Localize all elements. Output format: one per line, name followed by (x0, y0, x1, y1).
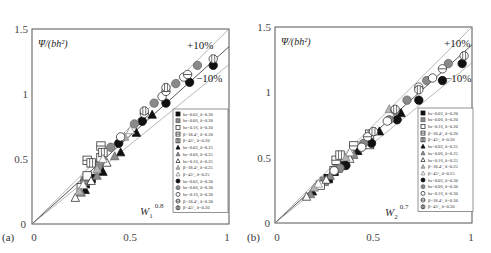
circle-marker (428, 74, 436, 82)
circle-marker (421, 185, 425, 189)
chart-panel-b: 1.5 1 0.5 0 0 0.5 1 (b) Ψ/(bh²) +10% −10… (247, 21, 474, 244)
circle-marker (130, 120, 138, 128)
figure-canvas: 1.5 1 0.5 0 0 0.5 1 (a) Ψ/(bh²) +10% −10… (0, 0, 491, 253)
x-axis-label-a: W10.8 (140, 202, 164, 220)
band-label-upper-a: +10% (187, 39, 213, 51)
circle-marker (183, 70, 191, 78)
square-marker (176, 119, 180, 123)
circle-marker (138, 117, 146, 125)
triangle-marker (148, 110, 156, 118)
circle-marker (415, 96, 423, 104)
panel-label-b: (b) (247, 231, 260, 244)
square-marker (176, 139, 180, 143)
circle-marker (357, 143, 365, 151)
circle-marker (150, 99, 158, 107)
ytick-1: 1 (23, 88, 29, 100)
circle-marker (460, 52, 468, 60)
square-marker (176, 112, 180, 116)
band-label-lower-b: −10% (445, 72, 471, 84)
circle-marker (209, 55, 217, 63)
ytick-0: 0 (21, 218, 27, 230)
square-marker (421, 111, 425, 115)
circle-marker (415, 86, 423, 94)
circle-marker (176, 179, 180, 183)
circle-marker (116, 133, 124, 141)
xtick-0.5: 0.5 (366, 231, 380, 243)
circle-marker (369, 127, 377, 135)
square-marker (421, 124, 425, 128)
ytick-0.5: 0.5 (14, 153, 28, 165)
band-label-upper-b: +10% (444, 37, 470, 49)
circle-marker (421, 178, 425, 182)
circle-marker (421, 198, 425, 202)
circle-marker (107, 143, 115, 151)
square-marker (176, 125, 180, 129)
square-marker (87, 159, 95, 167)
xtick-1: 1 (468, 231, 474, 243)
y-axis-label-b: Ψ/(bh²) (281, 36, 311, 48)
x-axis-label-b: W20.7 (385, 203, 409, 221)
circle-marker (176, 199, 180, 203)
circle-marker (176, 206, 180, 210)
legend-a: hs=0.02, δ=0.20hs=0.06, δ=0.20hs=0.16, δ… (173, 109, 228, 213)
ytick-1.5: 1.5 (14, 23, 28, 35)
ytick-0.5: 0.5 (257, 152, 271, 164)
y-axis-label-a: Ψ/(bh²) (38, 38, 68, 50)
circle-marker (140, 107, 148, 115)
ytick-1: 1 (266, 86, 272, 98)
square-marker (421, 131, 425, 135)
circle-marker (421, 205, 425, 209)
band-label-lower-a: −10% (196, 72, 222, 84)
circle-marker (391, 105, 399, 113)
circle-marker (458, 59, 466, 67)
ytick-1.5: 1.5 (257, 21, 271, 33)
xtick-0.5: 0.5 (123, 231, 137, 243)
circle-marker (176, 192, 180, 196)
circle-marker (162, 83, 170, 91)
square-marker (421, 118, 425, 122)
xtick-0: 0 (274, 231, 280, 243)
ytick-0: 0 (265, 217, 271, 229)
square-marker (176, 132, 180, 136)
square-marker (421, 138, 425, 142)
xtick-1: 1 (224, 231, 230, 243)
chart-panel-a: 1.5 1 0.5 0 0 0.5 1 (a) Ψ/(bh²) +10% −10… (2, 23, 230, 244)
circle-marker (172, 79, 180, 87)
circle-marker (193, 61, 201, 69)
circle-marker (330, 167, 338, 175)
triangle-marker (116, 148, 124, 156)
circle-marker (393, 116, 401, 124)
circle-marker (403, 96, 411, 104)
xtick-0: 0 (31, 231, 37, 243)
circle-marker (421, 191, 425, 195)
legend-b: hs=0.02, δ=0.20hs=0.06, δ=0.20hs=0.16, δ… (418, 108, 473, 212)
circle-marker (176, 186, 180, 190)
circle-marker (383, 117, 391, 125)
panel-label-a: (a) (2, 231, 15, 244)
